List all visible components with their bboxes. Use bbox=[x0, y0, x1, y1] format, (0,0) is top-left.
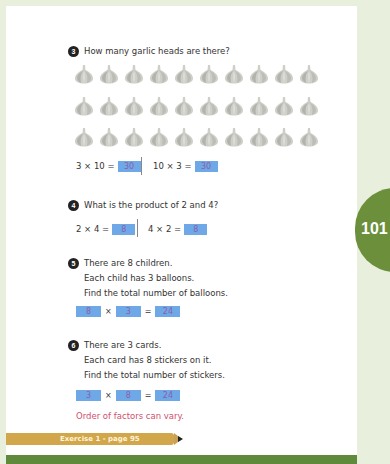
times-sign: × bbox=[105, 391, 112, 400]
page-number: 101 bbox=[361, 220, 388, 238]
answer-box: 30 bbox=[195, 161, 218, 172]
times-sign: × bbox=[105, 307, 112, 316]
question-3-equation-2: 10 × 3 = 30 bbox=[153, 160, 218, 172]
equation-divider bbox=[141, 157, 142, 175]
garlic-icon bbox=[99, 64, 119, 84]
garlic-icon bbox=[249, 96, 269, 116]
factor-box-1: 3 bbox=[76, 390, 101, 401]
garlic-icon bbox=[299, 64, 319, 84]
garlic-icon bbox=[299, 96, 319, 116]
garlic-icon bbox=[74, 96, 94, 116]
garlic-icon bbox=[274, 96, 294, 116]
answer-box: 8 bbox=[184, 224, 207, 235]
equation-divider bbox=[137, 219, 138, 237]
garlic-icon bbox=[124, 64, 144, 84]
question-6-line-1: There are 3 cards. bbox=[84, 340, 161, 350]
product-box: 24 bbox=[155, 390, 180, 401]
garlic-icon bbox=[274, 127, 294, 147]
garlic-row bbox=[74, 127, 319, 147]
garlic-icon bbox=[149, 64, 169, 84]
garlic-icon bbox=[224, 96, 244, 116]
equation-expression: 4 × 2 = bbox=[148, 224, 181, 234]
bottom-bar bbox=[6, 455, 357, 464]
equation-expression: 2 × 4 = bbox=[76, 224, 109, 234]
garlic-icon bbox=[249, 127, 269, 147]
garlic-icon bbox=[99, 96, 119, 116]
garlic-icon bbox=[124, 127, 144, 147]
garlic-icon bbox=[199, 96, 219, 116]
question-6-line-3: Find the total number of stickers. bbox=[84, 370, 225, 380]
question-4-badge: 4 bbox=[68, 200, 79, 211]
equals-sign: = bbox=[145, 391, 152, 400]
equation-expression: 3 × 10 = bbox=[76, 161, 115, 171]
question-6-answer-row: 3 × 8 = 24 bbox=[76, 389, 180, 401]
garlic-icon bbox=[74, 127, 94, 147]
question-3-badge: 3 bbox=[68, 46, 79, 57]
question-4-equation-2: 4 × 2 = 8 bbox=[148, 223, 207, 235]
equals-sign: = bbox=[145, 307, 152, 316]
question-5-line-3: Find the total number of balloons. bbox=[84, 288, 228, 298]
exercise-reference[interactable]: Exercise 1 - page 95 bbox=[60, 435, 140, 443]
question-6-badge: 6 bbox=[68, 340, 79, 351]
garlic-icon bbox=[299, 127, 319, 147]
garlic-icon bbox=[199, 64, 219, 84]
teacher-note: Order of factors can vary. bbox=[76, 411, 184, 421]
question-4-text: What is the product of 2 and 4? bbox=[84, 200, 218, 210]
garlic-icon bbox=[274, 64, 294, 84]
garlic-row bbox=[74, 64, 319, 84]
garlic-icon bbox=[199, 127, 219, 147]
answer-box: 8 bbox=[112, 224, 135, 235]
garlic-icon bbox=[174, 127, 194, 147]
garlic-icon bbox=[224, 127, 244, 147]
garlic-row bbox=[74, 96, 319, 116]
product-box: 24 bbox=[155, 306, 180, 317]
factor-box-1: 8 bbox=[76, 306, 101, 317]
garlic-icon bbox=[149, 127, 169, 147]
question-5-answer-row: 8 × 3 = 24 bbox=[76, 305, 180, 317]
pencil-lead-icon bbox=[178, 436, 183, 442]
garlic-icon bbox=[99, 127, 119, 147]
factor-box-2: 8 bbox=[116, 390, 141, 401]
question-3-equation-1: 3 × 10 = 30 bbox=[76, 160, 141, 172]
equation-expression: 10 × 3 = bbox=[153, 161, 192, 171]
question-3-text: How many garlic heads are there? bbox=[84, 46, 230, 56]
question-4-equation-1: 2 × 4 = 8 bbox=[76, 223, 135, 235]
garlic-icon bbox=[174, 96, 194, 116]
question-6-line-2: Each card has 8 stickers on it. bbox=[84, 355, 211, 365]
question-5-line-2: Each child has 3 balloons. bbox=[84, 273, 194, 283]
garlic-icon bbox=[174, 64, 194, 84]
garlic-icon bbox=[124, 96, 144, 116]
question-5-badge: 5 bbox=[68, 258, 79, 269]
question-5-line-1: There are 8 children. bbox=[84, 258, 172, 268]
garlic-icon bbox=[249, 64, 269, 84]
garlic-icon bbox=[224, 64, 244, 84]
answer-box: 30 bbox=[118, 161, 141, 172]
garlic-icon bbox=[149, 96, 169, 116]
garlic-icon bbox=[74, 64, 94, 84]
factor-box-2: 3 bbox=[116, 306, 141, 317]
